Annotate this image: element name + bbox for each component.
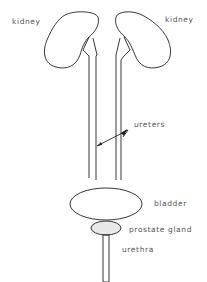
label-prostate: prostate gland	[129, 225, 192, 234]
prostate-gland	[91, 221, 121, 235]
arrowhead-left	[97, 142, 102, 146]
label-bladder: bladder	[154, 199, 187, 208]
left-ureter	[83, 37, 89, 178]
label-ureters: ureters	[134, 120, 165, 129]
label-kidney-right: kidney	[165, 15, 194, 24]
right-ureter-inner	[116, 38, 120, 180]
bladder	[70, 188, 142, 220]
label-kidney-left: kidney	[12, 17, 41, 26]
left-ureter-inner	[93, 38, 97, 180]
urinary-system-diagram: kidney kidney ureters bladder prostate g…	[0, 0, 207, 282]
right-kidney	[116, 12, 171, 68]
label-urethra: urethra	[122, 245, 154, 254]
urethra	[103, 235, 109, 282]
left-kidney	[44, 12, 98, 68]
right-ureter	[121, 37, 130, 180]
